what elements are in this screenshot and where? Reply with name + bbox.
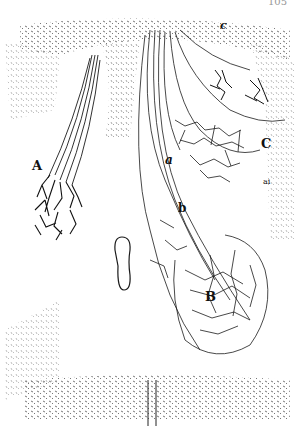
midline-tissue: [100, 40, 140, 140]
histology-illustration: [0, 0, 299, 426]
label-B: B: [205, 290, 216, 303]
label-b: b: [178, 202, 186, 214]
arbor-b: [150, 220, 268, 354]
label-C: C: [261, 137, 271, 150]
label-ai: ai: [263, 178, 270, 186]
label-a: a: [165, 154, 173, 166]
top-tissue-band: [20, 19, 290, 60]
label-A: A: [32, 159, 42, 172]
central-canal: [115, 237, 130, 290]
label-c: c: [220, 20, 227, 31]
bottom-tissue-band: [25, 375, 290, 420]
arbor-a: [35, 175, 82, 240]
